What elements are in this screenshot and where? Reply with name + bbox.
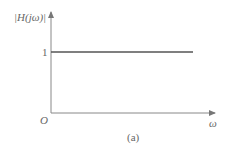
y-tick-1: 1 [42,47,48,58]
figure-caption: (a) [127,132,139,143]
origin-label: O [40,115,48,126]
x-axis-label: ω [209,118,217,129]
y-axis-label: |H(jω)| [14,12,46,23]
